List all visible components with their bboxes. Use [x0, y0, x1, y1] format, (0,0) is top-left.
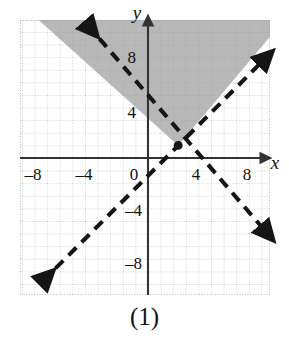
y-axis-label: y	[131, 2, 142, 23]
figure-caption: (1)	[0, 303, 289, 331]
x-axis-label: x	[270, 152, 280, 173]
vertex-point	[174, 141, 183, 150]
x-tick-label-minus-8: –8	[24, 165, 42, 184]
graph-figure: x y –8 –4 0 4 8 8 4 –4 –8	[0, 0, 289, 344]
x-tick-label-4: 4	[192, 165, 201, 184]
x-tick-label-0: 0	[130, 165, 139, 184]
y-tick-label-minus-4: –4	[124, 201, 143, 220]
x-tick-label-8: 8	[243, 165, 252, 184]
x-tick-label-minus-4: –4	[75, 165, 94, 184]
y-tick-label-4: 4	[128, 103, 137, 122]
y-tick-label-minus-8: –8	[124, 254, 142, 273]
y-tick-label-8: 8	[128, 48, 137, 67]
